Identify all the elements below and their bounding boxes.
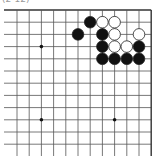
black-stone	[97, 53, 109, 65]
black-stone	[133, 53, 145, 65]
black-stone	[84, 16, 96, 28]
black-stone	[109, 53, 121, 65]
white-stone	[109, 16, 121, 28]
black-stone	[97, 41, 109, 53]
white-stone	[133, 29, 145, 41]
white-stone	[109, 41, 121, 53]
black-stone	[97, 29, 109, 41]
white-stone	[109, 29, 121, 41]
go-board	[0, 0, 158, 158]
white-stone	[97, 16, 109, 28]
black-stone	[121, 53, 133, 65]
black-stone	[133, 41, 145, 53]
white-stone	[121, 41, 133, 53]
black-stone	[72, 29, 84, 41]
star-point	[40, 118, 44, 122]
star-point	[40, 45, 44, 49]
star-point	[113, 118, 117, 122]
